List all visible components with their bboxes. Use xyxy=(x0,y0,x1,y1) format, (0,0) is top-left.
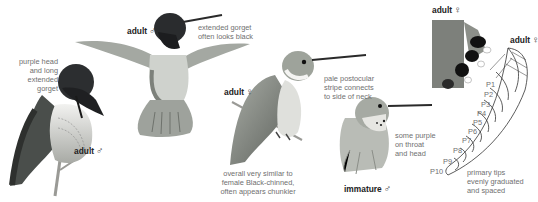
label-text: adult xyxy=(224,87,244,97)
tail-adult-female-figure xyxy=(432,20,491,89)
primary-label-p9: P9 xyxy=(443,157,452,166)
primary-label-p7: P7 xyxy=(462,136,471,145)
male-symbol-icon: ♂ xyxy=(384,183,392,194)
primary-label-p3: P3 xyxy=(481,100,490,109)
label-adult-female-wing: adult♀ xyxy=(510,34,538,45)
primary-label-p8: P8 xyxy=(453,146,462,155)
label-adult-female-tail: adult♀ xyxy=(432,4,462,15)
label-text: adult xyxy=(127,26,147,36)
note-some-purple: some purple on throat and head xyxy=(395,131,436,158)
primary-label-p10: P10 xyxy=(430,167,443,176)
label-adult-female-perched: adult♀ xyxy=(224,86,254,97)
label-adult-male-hovering: adult♂ xyxy=(127,25,157,36)
note-postocular-stripe: pale postocular stripe connects to side … xyxy=(324,74,374,101)
primary-label-p4: P4 xyxy=(477,109,486,118)
label-text: adult xyxy=(432,5,452,15)
note-similar-black-chinned: overall very similar to female Black-chi… xyxy=(214,169,302,196)
primary-label-p2: P2 xyxy=(484,90,493,99)
note-extended-gorget: extended gorget often looks black xyxy=(198,23,253,41)
label-adult-male-perched: adult♂ xyxy=(74,145,104,156)
primary-label-p6: P6 xyxy=(468,127,477,136)
label-text: adult xyxy=(74,146,94,156)
note-purple-head: purple head and long extended gorget xyxy=(8,57,58,93)
primary-label-p1: P1 xyxy=(486,80,495,89)
label-text: adult xyxy=(510,35,530,45)
label-immature-male: immature♂ xyxy=(344,183,391,194)
female-symbol-icon: ♀ xyxy=(246,86,254,97)
illustration-plate: purple head and long extended gorget adu… xyxy=(0,0,538,202)
male-symbol-icon: ♂ xyxy=(96,145,104,156)
female-symbol-icon: ♀ xyxy=(532,34,538,45)
primary-label-p5: P5 xyxy=(473,118,482,127)
female-symbol-icon: ♀ xyxy=(454,4,462,15)
label-text: immature xyxy=(344,184,382,194)
note-primary-tips: primary tips evenly graduated and spaced xyxy=(467,168,524,195)
male-symbol-icon: ♂ xyxy=(149,25,157,36)
